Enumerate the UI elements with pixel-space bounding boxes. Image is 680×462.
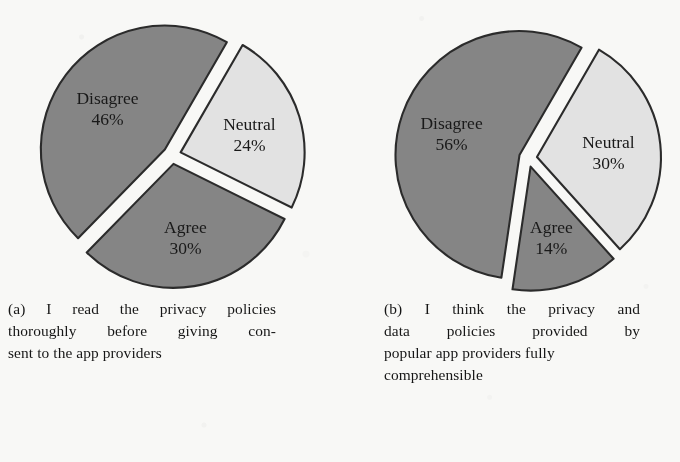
- pie-slice-category: Neutral: [223, 114, 276, 134]
- figure-panel-b: Neutral30%Agree14%Disagree56% (b) I thin…: [340, 0, 680, 462]
- pie-slice-value: 24%: [233, 135, 265, 155]
- caption-word: policies: [447, 320, 496, 342]
- pie-chart-b: Neutral30%Agree14%Disagree56%: [340, 0, 680, 300]
- caption-word: provided: [532, 320, 588, 342]
- pie-slice-value: 30%: [592, 153, 624, 173]
- pie-chart-a: Neutral24%Agree30%Disagree46%: [0, 0, 340, 300]
- caption-a-line-1: (a) I read the privacy policies: [8, 298, 276, 320]
- caption-word: by: [624, 320, 640, 342]
- caption-b-line-3: popular app providers fully: [384, 342, 640, 364]
- caption-word: I: [46, 298, 51, 320]
- caption-b-line-4: comprehensible: [384, 364, 640, 386]
- caption-word: and: [617, 298, 640, 320]
- caption-a-line-3: sent to the app providers: [8, 342, 276, 364]
- pie-chart-a-svg: Neutral24%Agree30%Disagree46%: [0, 0, 340, 300]
- caption-word: (b): [384, 298, 402, 320]
- caption-word: (a): [8, 298, 25, 320]
- pie-slice-value: 56%: [436, 134, 468, 154]
- caption-word: the: [120, 298, 139, 320]
- pie-slice-category: Disagree: [76, 88, 138, 108]
- caption-word: policies: [227, 298, 276, 320]
- pie-slice-value: 46%: [92, 109, 124, 129]
- pie-slice-value: 14%: [535, 238, 567, 258]
- caption-word: read: [72, 298, 99, 320]
- pie-slice-category: Neutral: [582, 132, 635, 152]
- caption-a-line-2: thoroughly before giving con-: [8, 320, 276, 342]
- pie-slice-value: 30%: [169, 238, 201, 258]
- pie-slice-label-agree: Agree30%: [164, 217, 207, 258]
- caption-word: I: [425, 298, 430, 320]
- pie-slice-category: Disagree: [420, 113, 482, 133]
- figure-panel-a: Neutral24%Agree30%Disagree46% (a) I read…: [0, 0, 340, 462]
- caption-a: (a) I read the privacy policies thorough…: [8, 298, 276, 364]
- caption-word: think: [452, 298, 484, 320]
- caption-word: con-: [248, 320, 276, 342]
- caption-word: thoroughly: [8, 320, 77, 342]
- caption-b-line-2: data policies provided by: [384, 320, 640, 342]
- caption-b-line-1: (b) I think the privacy and: [384, 298, 640, 320]
- caption-word: giving: [178, 320, 218, 342]
- caption-word: data: [384, 320, 410, 342]
- pie-slice-category: Agree: [164, 217, 207, 237]
- caption-word: privacy: [548, 298, 595, 320]
- caption-word: privacy: [160, 298, 207, 320]
- caption-b: (b) I think the privacy and data policie…: [384, 298, 640, 386]
- figure-two-pie-charts: Neutral24%Agree30%Disagree46% (a) I read…: [0, 0, 680, 462]
- pie-slice-category: Agree: [530, 217, 573, 237]
- pie-slice-label-agree: Agree14%: [530, 217, 573, 258]
- caption-word: the: [507, 298, 526, 320]
- pie-chart-b-svg: Neutral30%Agree14%Disagree56%: [340, 0, 680, 300]
- caption-word: before: [107, 320, 147, 342]
